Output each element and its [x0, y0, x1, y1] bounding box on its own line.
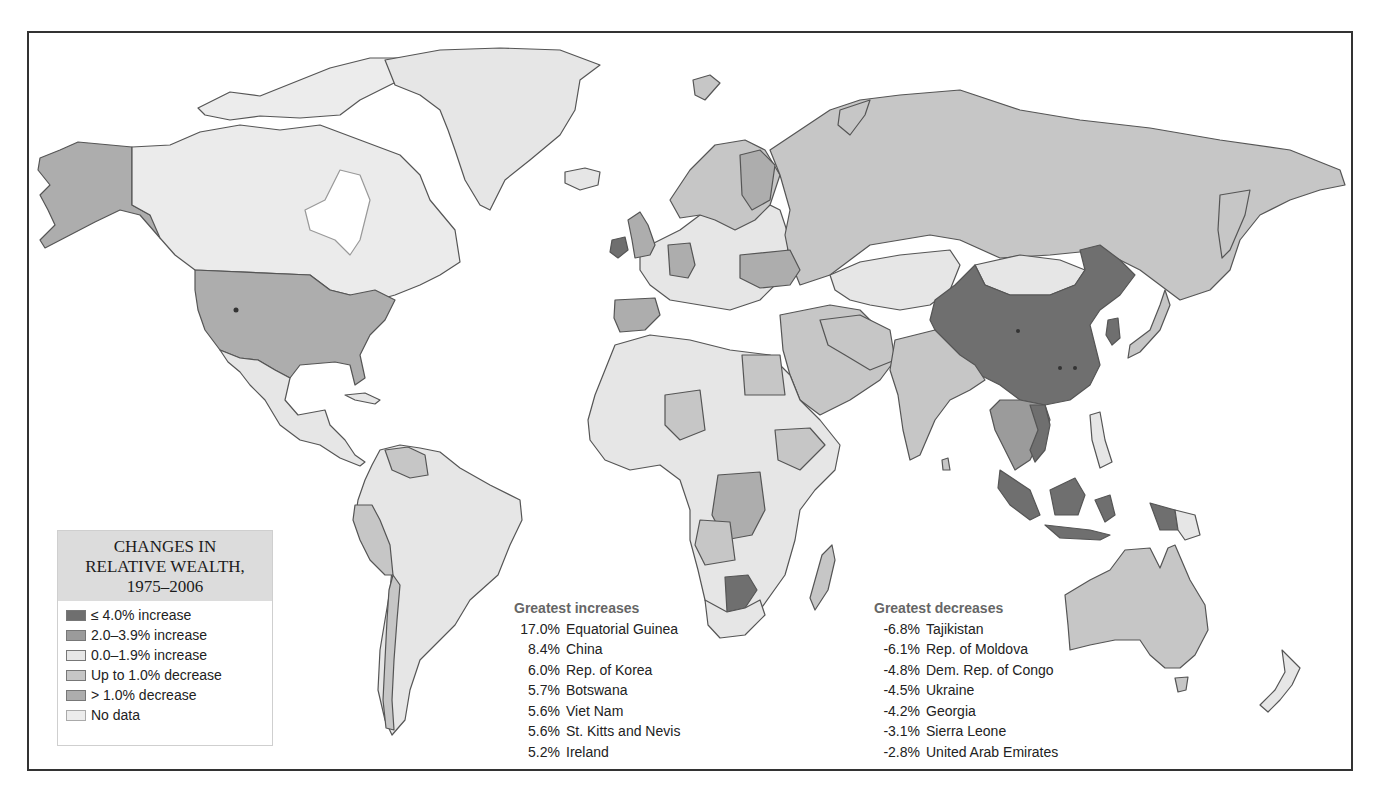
- city-dot: [234, 308, 239, 313]
- region-ukraine: [740, 250, 800, 288]
- region-philippines: [1090, 412, 1112, 468]
- list-country: Tajikistan: [926, 619, 984, 640]
- region-indonesia: [998, 470, 1178, 540]
- legend-swatch: [66, 710, 86, 721]
- greatest-increases-list: Greatest increases 17.0%Equatorial Guine…: [514, 598, 680, 762]
- region-spain: [614, 298, 660, 332]
- list-item: -4.2%Georgia: [874, 701, 1058, 722]
- legend-swatch: [66, 650, 86, 661]
- legend-item: 2.0–3.9% increase: [66, 625, 272, 645]
- list-item: 5.6%St. Kitts and Nevis: [514, 721, 680, 742]
- list-value: -6.1%: [874, 639, 926, 660]
- list-title: Greatest decreases: [874, 598, 1058, 619]
- region-svalbard: [693, 75, 720, 100]
- region-japan: [1128, 290, 1170, 358]
- list-item: 5.2%Ireland: [514, 742, 680, 763]
- list-item: 17.0%Equatorial Guinea: [514, 619, 680, 640]
- list-value: -2.8%: [874, 742, 926, 763]
- list-country: United Arab Emirates: [926, 742, 1058, 763]
- list-country: Georgia: [926, 701, 976, 722]
- list-country: Rep. of Moldova: [926, 639, 1028, 660]
- list-country: Sierra Leone: [926, 721, 1006, 742]
- legend-item: > 1.0% decrease: [66, 685, 272, 705]
- list-value: 5.7%: [514, 680, 566, 701]
- region-sri-lanka: [942, 458, 950, 470]
- list-item: -2.8%United Arab Emirates: [874, 742, 1058, 763]
- city-dot: [1016, 329, 1020, 333]
- region-australia: [1065, 545, 1208, 668]
- list-item: 8.4%China: [514, 639, 680, 660]
- list-item: -4.5%Ukraine: [874, 680, 1058, 701]
- list-value: -4.8%: [874, 660, 926, 681]
- list-value: -6.8%: [874, 619, 926, 640]
- legend-item: 0.0–1.9% increase: [66, 645, 272, 665]
- region-south-america: [355, 445, 522, 735]
- legend-swatch: [66, 630, 86, 641]
- list-value: -4.5%: [874, 680, 926, 701]
- legend-label: 0.0–1.9% increase: [91, 647, 207, 663]
- legend-swatch: [66, 690, 86, 701]
- legend-title-line: 1975–2006: [58, 577, 272, 597]
- list-country: Dem. Rep. of Congo: [926, 660, 1054, 681]
- region-germany: [668, 243, 695, 278]
- legend-title: CHANGES IN RELATIVE WEALTH, 1975–2006: [58, 531, 272, 601]
- region-ireland: [610, 237, 628, 258]
- list-item: -3.1%Sierra Leone: [874, 721, 1058, 742]
- list-item: 5.7%Botswana: [514, 680, 680, 701]
- list-country: Rep. of Korea: [566, 660, 652, 681]
- list-item: -4.8%Dem. Rep. of Congo: [874, 660, 1058, 681]
- list-item: 5.6%Viet Nam: [514, 701, 680, 722]
- list-country: China: [566, 639, 603, 660]
- city-dot: [1073, 366, 1077, 370]
- region-canada-islands: [198, 58, 420, 120]
- legend-item: No data: [66, 705, 272, 725]
- city-dot: [1058, 366, 1062, 370]
- list-country: Equatorial Guinea: [566, 619, 678, 640]
- region-uk: [628, 212, 655, 258]
- region-iceland: [565, 168, 600, 190]
- list-item: -6.1%Rep. of Moldova: [874, 639, 1058, 660]
- region-angola: [695, 520, 735, 565]
- region-new-zealand: [1260, 650, 1300, 712]
- region-papua-new-guinea: [1175, 510, 1200, 540]
- legend-title-line: RELATIVE WEALTH,: [58, 557, 272, 577]
- region-korea: [1106, 318, 1120, 345]
- list-item: -6.8%Tajikistan: [874, 619, 1058, 640]
- legend-label: > 1.0% decrease: [91, 687, 196, 703]
- legend-item: Up to 1.0% decrease: [66, 665, 272, 685]
- list-value: 5.6%: [514, 721, 566, 742]
- legend-label: Up to 1.0% decrease: [91, 667, 222, 683]
- list-country: Botswana: [566, 680, 627, 701]
- legend-label: No data: [91, 707, 140, 723]
- legend-swatch: [66, 610, 86, 621]
- list-country: St. Kitts and Nevis: [566, 721, 680, 742]
- region-egypt: [742, 355, 785, 395]
- region-madagascar: [810, 545, 835, 610]
- list-title: Greatest increases: [514, 598, 680, 619]
- list-value: 5.2%: [514, 742, 566, 763]
- legend-items: ≤ 4.0% increase 2.0–3.9% increase 0.0–1.…: [58, 601, 272, 725]
- list-country: Viet Nam: [566, 701, 623, 722]
- list-value: -3.1%: [874, 721, 926, 742]
- list-item: 6.0%Rep. of Korea: [514, 660, 680, 681]
- legend-swatch: [66, 670, 86, 681]
- legend-title-line: CHANGES IN: [58, 537, 272, 557]
- greatest-decreases-list: Greatest decreases -6.8%Tajikistan -6.1%…: [874, 598, 1058, 762]
- legend-label: ≤ 4.0% increase: [91, 607, 191, 623]
- legend-item: ≤ 4.0% increase: [66, 605, 272, 625]
- region-tasmania: [1175, 677, 1188, 692]
- region-cuba: [345, 393, 380, 404]
- list-value: 5.6%: [514, 701, 566, 722]
- list-country: Ukraine: [926, 680, 974, 701]
- list-country: Ireland: [566, 742, 609, 763]
- legend-label: 2.0–3.9% increase: [91, 627, 207, 643]
- list-value: 6.0%: [514, 660, 566, 681]
- list-value: 17.0%: [514, 619, 566, 640]
- legend: CHANGES IN RELATIVE WEALTH, 1975–2006 ≤ …: [57, 530, 273, 746]
- list-value: 8.4%: [514, 639, 566, 660]
- list-value: -4.2%: [874, 701, 926, 722]
